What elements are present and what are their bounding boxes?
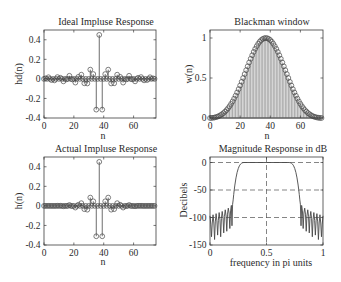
y-tick-label: 0 (36, 201, 41, 211)
x-tick-label: 40 (266, 121, 276, 131)
figure-background (0, 0, 341, 282)
y-axis-label: h(n) (13, 193, 25, 210)
y-tick-label: 0 (202, 158, 207, 168)
x-tick-label: 60 (129, 248, 139, 258)
x-tick-label: 1 (321, 248, 326, 258)
y-tick-label: -0.2 (25, 94, 40, 104)
x-tick-label: 60 (296, 121, 306, 131)
plot-title: Blackman window (234, 16, 310, 27)
y-axis-label: hd(n) (13, 63, 25, 85)
y-axis-label: w(n) (183, 65, 195, 84)
y-tick-label: -50 (194, 185, 207, 195)
x-axis-label: frequency in pi units (230, 257, 313, 268)
x-axis-label: n (101, 256, 106, 267)
y-tick-label: 0 (202, 113, 207, 123)
x-axis-label: n (101, 130, 106, 141)
x-tick-label: 20 (69, 248, 79, 258)
x-tick-label: 0 (208, 248, 213, 258)
y-tick-label: -100 (189, 213, 207, 223)
plot-title: Magnitude Response in dB (219, 143, 328, 154)
x-tick-label: 0.5 (261, 248, 273, 258)
y-tick-label: 0.4 (29, 162, 41, 172)
y-tick-label: -0.2 (25, 221, 40, 231)
x-tick-label: 20 (235, 121, 245, 131)
y-tick-label: 0.4 (29, 35, 41, 45)
x-tick-label: 40 (99, 121, 109, 131)
y-tick-label: 0 (36, 74, 41, 84)
x-tick-label: 0 (208, 121, 213, 131)
x-tick-label: 0 (42, 121, 47, 131)
plot-title: Ideal Impluse Response (58, 16, 154, 27)
x-tick-label: 60 (129, 121, 139, 131)
y-tick-label: -0.4 (25, 240, 40, 250)
x-tick-label: 0 (42, 248, 47, 258)
y-tick-label: 0.5 (195, 73, 207, 83)
y-tick-label: -150 (189, 240, 207, 250)
y-tick-label: 0.2 (29, 55, 41, 65)
x-axis-label: n (265, 130, 270, 141)
x-tick-label: 20 (69, 121, 79, 131)
y-axis-label: Decibels (178, 182, 189, 217)
y-tick-label: 1 (202, 33, 207, 43)
figure-canvas: 0204060-0.4-0.200.20.4 Ideal Impluse Res… (0, 0, 341, 282)
plot-title: Actual Impluse Response (55, 143, 158, 154)
y-tick-label: 0.2 (29, 182, 41, 192)
y-tick-label: -0.4 (25, 113, 40, 123)
